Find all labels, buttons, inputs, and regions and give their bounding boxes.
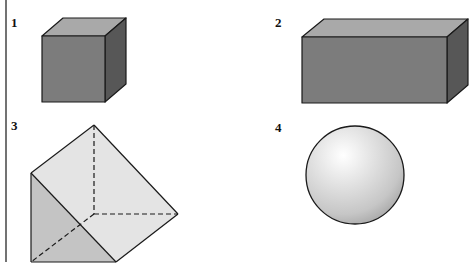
shape-label-2: 2 [275, 16, 282, 29]
shape-label-4: 4 [275, 121, 282, 134]
rectangular-prism-shape [302, 19, 468, 103]
geometry-figure: 1 2 3 4 [0, 0, 474, 273]
triangular-prism-shape [31, 125, 178, 262]
box-top-face [302, 19, 468, 37]
box-front-face [302, 37, 447, 103]
shape-label-3: 3 [11, 119, 18, 132]
cube-shape [42, 18, 126, 102]
sphere-shape [306, 126, 404, 224]
cube-front-face [42, 36, 105, 102]
figure-drawing [0, 0, 474, 273]
shape-label-1: 1 [11, 16, 18, 29]
